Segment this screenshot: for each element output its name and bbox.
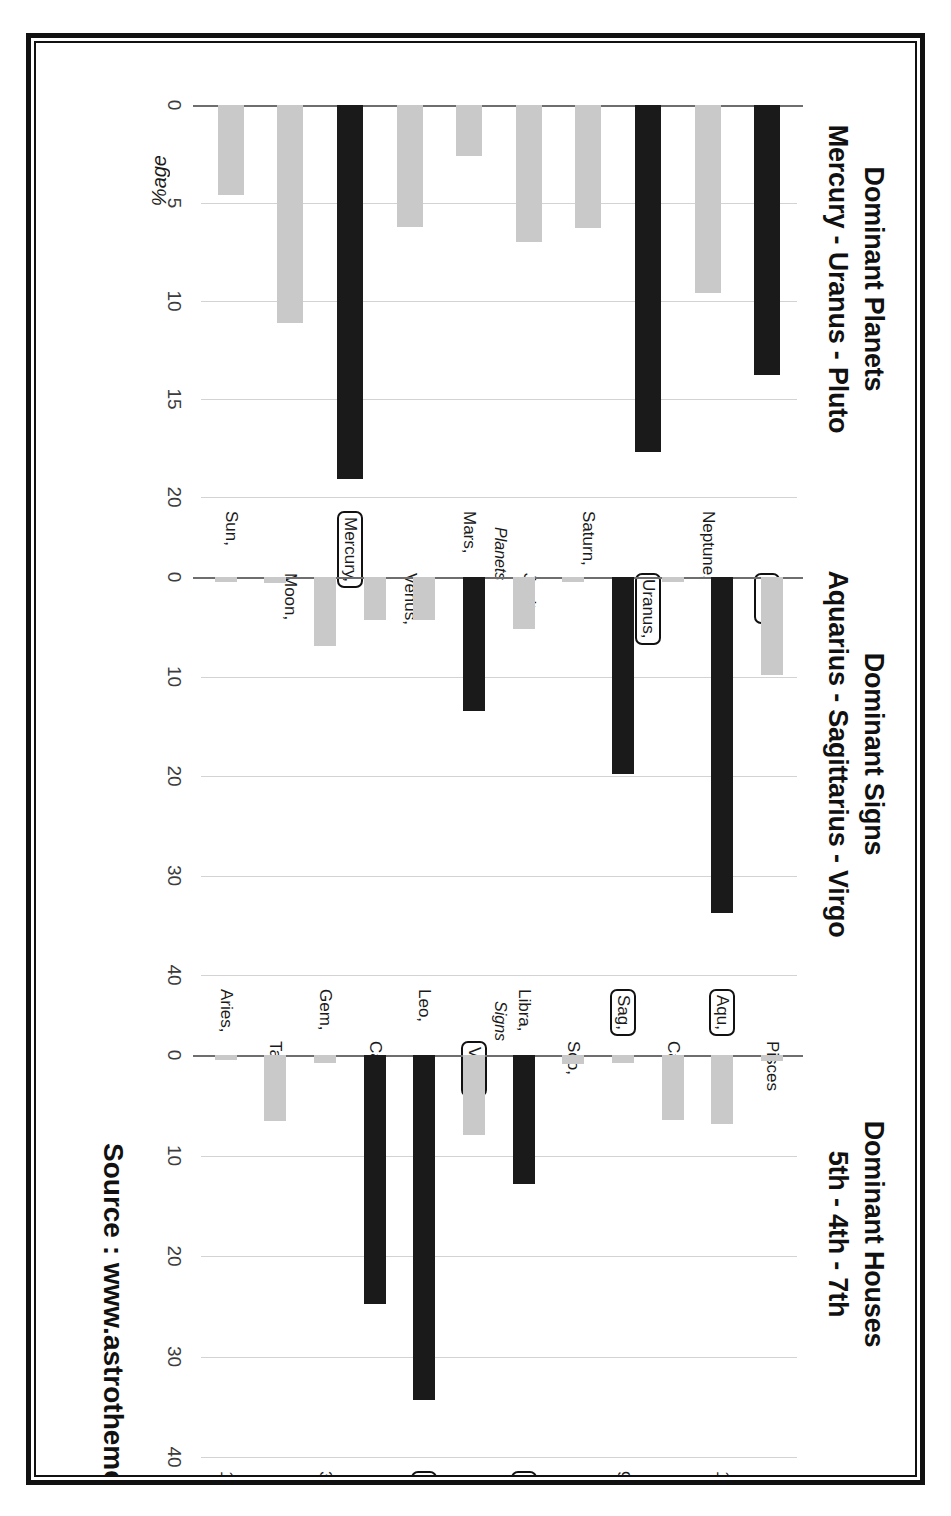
chart-panel-planets: Dominant Planets Mercury - Uranus - Plut… bbox=[36, 43, 915, 515]
bar-row bbox=[612, 1055, 634, 1457]
bar-row bbox=[215, 577, 237, 975]
bar-row bbox=[516, 105, 542, 497]
bar-normal bbox=[761, 1055, 783, 1061]
value-tick-label: 10 bbox=[163, 666, 185, 687]
bar-normal bbox=[277, 105, 303, 323]
gridline bbox=[201, 497, 797, 498]
bar-normal bbox=[265, 1055, 287, 1121]
bar-row bbox=[265, 577, 287, 975]
planets-title: Dominant Planets bbox=[858, 43, 889, 515]
scanned-page: Dominant Planets Mercury - Uranus - Plut… bbox=[0, 0, 951, 1516]
value-tick-label: 15 bbox=[163, 388, 185, 409]
bar-dominant bbox=[414, 1055, 436, 1400]
bar-row bbox=[662, 577, 684, 975]
gridline bbox=[201, 1256, 797, 1257]
bar-row bbox=[563, 577, 585, 975]
category-label: 7, bbox=[511, 1471, 537, 1475]
bar-normal bbox=[314, 1055, 336, 1063]
bar-normal bbox=[612, 1055, 634, 1063]
bar-row bbox=[612, 577, 634, 975]
bar-dominant bbox=[612, 577, 634, 774]
bar-row bbox=[563, 1055, 585, 1457]
bar-normal bbox=[662, 577, 684, 582]
category-label: 9, bbox=[613, 1471, 633, 1475]
signs-title: Dominant Signs bbox=[858, 515, 889, 993]
y-axis-label: %age bbox=[148, 155, 171, 206]
gridline bbox=[201, 1357, 797, 1358]
bar-row bbox=[463, 577, 485, 975]
bar-row bbox=[712, 577, 734, 975]
bar-row bbox=[215, 1055, 237, 1457]
bar-row bbox=[513, 577, 535, 975]
value-tick-label: 20 bbox=[163, 486, 185, 507]
value-tick-label: 20 bbox=[163, 765, 185, 786]
gridline bbox=[201, 776, 797, 777]
bar-row bbox=[575, 105, 601, 497]
bar-row bbox=[414, 1055, 436, 1457]
bar-normal bbox=[662, 1055, 684, 1120]
bar-row bbox=[513, 1055, 535, 1457]
gridline bbox=[201, 1457, 797, 1458]
gridline bbox=[201, 975, 797, 976]
category-label: 1, bbox=[216, 1471, 236, 1475]
bar-dominant bbox=[712, 577, 734, 913]
value-tick-label: 10 bbox=[163, 1145, 185, 1166]
bar-dominant bbox=[754, 105, 780, 375]
bar-normal bbox=[712, 1055, 734, 1124]
bar-row bbox=[635, 105, 661, 497]
value-tick-label: 0 bbox=[163, 572, 185, 583]
bar-normal bbox=[563, 577, 585, 582]
bar-row bbox=[314, 577, 336, 975]
value-tick-label: 0 bbox=[163, 100, 185, 111]
bar-row bbox=[761, 577, 783, 975]
chart-panel-signs: Dominant Signs Aquarius - Sagittarius - … bbox=[36, 515, 915, 993]
bar-row bbox=[761, 1055, 783, 1457]
bar-normal bbox=[215, 1055, 237, 1060]
bar-normal bbox=[218, 105, 244, 195]
bar-row bbox=[277, 105, 303, 497]
bar-normal bbox=[414, 577, 436, 620]
houses-plot-area: 0102030401,2,3,4,5,6,7,8,9,10,11,12House… bbox=[201, 1055, 797, 1457]
bar-normal bbox=[456, 105, 482, 156]
bar-dominant bbox=[463, 577, 485, 711]
bar-row bbox=[712, 1055, 734, 1457]
value-tick-label: 0 bbox=[163, 1050, 185, 1061]
value-tick-label: 40 bbox=[163, 1446, 185, 1467]
bar-row bbox=[337, 105, 363, 497]
bar-normal bbox=[463, 1055, 485, 1135]
bar-dominant bbox=[364, 1055, 386, 1304]
bar-row bbox=[695, 105, 721, 497]
bar-normal bbox=[575, 105, 601, 228]
bar-row bbox=[218, 105, 244, 497]
bar-normal bbox=[516, 105, 542, 242]
bar-dominant bbox=[337, 105, 363, 479]
houses-title: Dominant Houses bbox=[858, 993, 889, 1475]
bar-normal bbox=[364, 577, 386, 620]
bar-row bbox=[662, 1055, 684, 1457]
category-label: 3, bbox=[315, 1471, 335, 1475]
rotated-content-stage: Dominant Planets Mercury - Uranus - Plut… bbox=[36, 43, 915, 1475]
signs-plot-area: 010203040Aries,Tau,Gem,Can,Leo,Virgo,Lib… bbox=[201, 577, 797, 975]
category-label: 5, bbox=[412, 1471, 438, 1475]
gridline bbox=[201, 876, 797, 877]
gridline bbox=[201, 1156, 797, 1157]
bar-normal bbox=[563, 1055, 585, 1064]
bar-normal bbox=[761, 577, 783, 675]
bar-row bbox=[364, 577, 386, 975]
rotation-wrapper: Dominant Planets Mercury - Uranus - Plut… bbox=[36, 43, 915, 1475]
chart-panel-houses: Dominant Houses 5th - 4th - 7th 01020304… bbox=[36, 993, 915, 1475]
value-tick-label: 30 bbox=[163, 865, 185, 886]
planets-subtitle: Mercury - Uranus - Pluto bbox=[822, 43, 853, 515]
value-tick-label: 40 bbox=[163, 964, 185, 985]
bar-dominant bbox=[635, 105, 661, 452]
bar-row bbox=[463, 1055, 485, 1457]
bar-row bbox=[397, 105, 423, 497]
value-tick-label: 30 bbox=[163, 1346, 185, 1367]
bar-normal bbox=[513, 577, 535, 629]
bar-row bbox=[754, 105, 780, 497]
source-note: Source : www.astrotheme.com bbox=[97, 1143, 129, 1475]
signs-subtitle: Aquarius - Sagittarius - Virgo bbox=[822, 515, 853, 993]
bar-row bbox=[456, 105, 482, 497]
value-tick-label: 20 bbox=[163, 1245, 185, 1266]
bar-normal bbox=[215, 577, 237, 582]
